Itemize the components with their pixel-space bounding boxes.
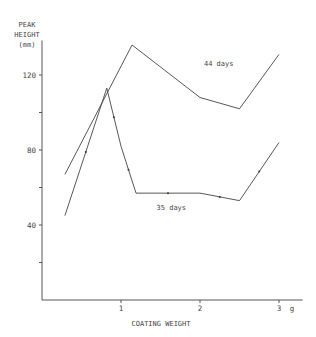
- series-annotation: 44 days: [204, 60, 234, 68]
- series-annotation: 35 days: [157, 204, 187, 212]
- data-marker: [258, 171, 260, 173]
- data-marker: [219, 196, 221, 198]
- y-axis-label: PEAK: [19, 21, 37, 29]
- x-tick-label: 3: [277, 304, 282, 313]
- x-unit-label: g: [290, 304, 295, 313]
- series-line: [65, 88, 279, 216]
- x-tick-label: 1: [119, 304, 124, 313]
- x-tick-label: 2: [198, 304, 203, 313]
- data-marker: [85, 151, 87, 153]
- y-axis-label: HEIGHT: [14, 31, 40, 39]
- y-tick-label: 80: [27, 146, 37, 155]
- data-marker: [167, 192, 169, 194]
- y-tick-label: 120: [22, 71, 36, 80]
- data-marker: [113, 116, 115, 118]
- y-tick-label: 40: [27, 221, 37, 230]
- y-axis-label: (mm): [19, 41, 36, 49]
- data-marker: [128, 169, 130, 171]
- series-line: [65, 45, 279, 174]
- line-chart: 4080120123gPEAKHEIGHT(mm)COATING WEIGHT4…: [0, 0, 316, 337]
- x-axis-label: COATING WEIGHT: [131, 320, 191, 328]
